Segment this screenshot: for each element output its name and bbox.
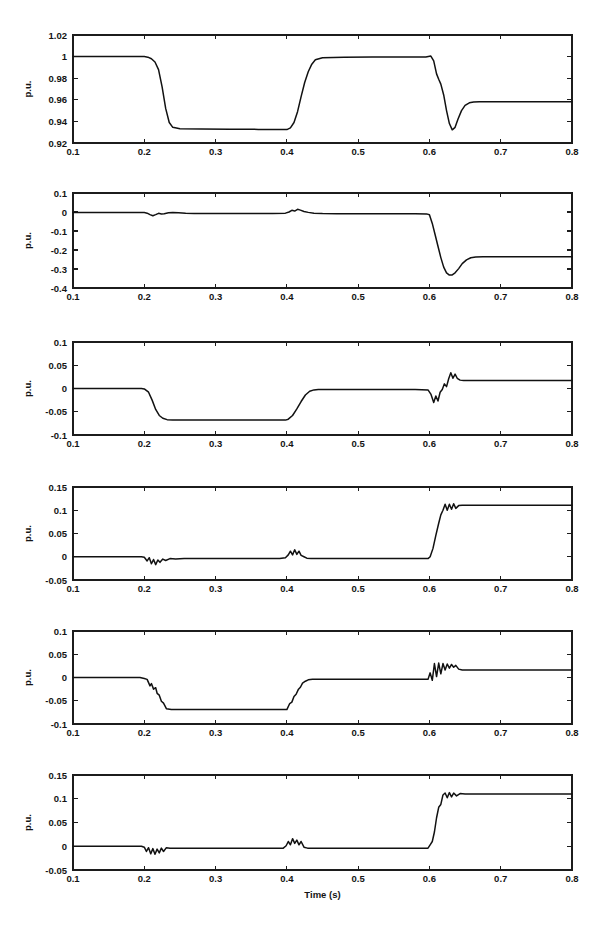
- x-tick-label: 0.6: [423, 438, 436, 449]
- y-tick-label: 0.1: [54, 626, 68, 637]
- y-tick-label: 0.1: [54, 505, 68, 516]
- axes-frame: [73, 487, 572, 580]
- x-tick-label: 0.5: [352, 583, 366, 594]
- y-tick-label: 0.1: [54, 188, 68, 199]
- y-axis-title: p.u.: [22, 232, 33, 249]
- y-tick-label: 1.02: [49, 30, 68, 41]
- y-tick-label: 0: [62, 672, 67, 683]
- y-tick-label: -0.2: [51, 245, 67, 256]
- x-tick-label: 0.1: [66, 873, 80, 884]
- data-trace-reactive-power: [73, 209, 572, 275]
- data-trace-signal-3: [73, 373, 572, 420]
- x-tick-label: 0.3: [209, 873, 222, 884]
- x-tick-label: 0.3: [209, 438, 222, 449]
- y-tick-label: -0.3: [51, 264, 67, 275]
- axes-frame: [73, 631, 572, 724]
- x-tick-label: 0.2: [138, 873, 151, 884]
- plot-area-3: 0.10.20.30.40.50.60.70.8-0.1-0.0500.050.…: [0, 327, 607, 465]
- x-tick-label: 0.2: [138, 146, 151, 157]
- x-tick-label: 0.7: [494, 146, 507, 157]
- y-tick-label: 0.1: [54, 793, 68, 804]
- x-tick-label: 0.8: [565, 727, 578, 738]
- plot-area-2: 0.10.20.30.40.50.60.70.8-0.4-0.3-0.2-0.1…: [0, 178, 607, 320]
- x-tick-label: 0.2: [138, 583, 151, 594]
- multi-panel-figure: 0.10.20.30.40.50.60.70.80.920.940.960.98…: [0, 0, 607, 948]
- plot-area-1: 0.10.20.30.40.50.60.70.80.920.940.960.98…: [0, 20, 607, 168]
- chart-panel-2: 0.10.20.30.40.50.60.70.8-0.4-0.3-0.2-0.1…: [0, 178, 607, 320]
- data-trace-voltage: [73, 56, 572, 130]
- plot-area-6: 0.10.20.30.40.50.60.70.8-0.0500.050.10.1…: [0, 760, 607, 912]
- y-tick-label: 0: [62, 841, 67, 852]
- y-tick-label: -0.05: [45, 865, 67, 876]
- x-tick-label: 0.8: [565, 873, 578, 884]
- y-axis-title: p.u.: [22, 380, 33, 397]
- y-tick-label: -0.05: [45, 575, 67, 586]
- x-tick-label: 0.5: [352, 291, 366, 302]
- chart-panel-1: 0.10.20.30.40.50.60.70.80.920.940.960.98…: [0, 20, 607, 168]
- x-tick-label: 0.3: [209, 727, 222, 738]
- x-tick-label: 0.2: [138, 291, 151, 302]
- y-tick-label: 0: [62, 551, 67, 562]
- x-tick-label: 0.1: [66, 727, 80, 738]
- x-tick-label: 0.5: [352, 438, 366, 449]
- y-tick-label: 1: [62, 51, 68, 62]
- data-trace-signal-4: [73, 504, 572, 565]
- x-tick-label: 0.4: [280, 727, 294, 738]
- axes-frame: [73, 193, 572, 288]
- y-tick-label: 0.05: [49, 649, 68, 660]
- x-tick-label: 0.7: [494, 873, 507, 884]
- y-tick-label: -0.4: [51, 283, 68, 294]
- y-tick-label: 0.94: [49, 116, 68, 127]
- x-tick-label: 0.8: [565, 146, 578, 157]
- x-tick-label: 0.4: [280, 291, 294, 302]
- x-tick-label: 0.4: [280, 146, 294, 157]
- y-tick-label: -0.05: [45, 406, 67, 417]
- x-tick-label: 0.3: [209, 291, 222, 302]
- x-tick-label: 0.8: [565, 291, 578, 302]
- x-tick-label: 0.4: [280, 873, 294, 884]
- y-axis-title: p.u.: [22, 81, 33, 98]
- y-tick-label: -0.1: [51, 719, 68, 730]
- x-tick-label: 0.1: [66, 583, 80, 594]
- chart-panel-5: 0.10.20.30.40.50.60.70.8-0.1-0.0500.050.…: [0, 616, 607, 754]
- x-tick-label: 0.4: [280, 438, 294, 449]
- y-tick-label: 0.15: [49, 770, 68, 781]
- y-tick-label: -0.1: [51, 226, 68, 237]
- plot-area-4: 0.10.20.30.40.50.60.70.8-0.0500.050.10.1…: [0, 472, 607, 610]
- x-tick-label: 0.6: [423, 291, 436, 302]
- axes-frame: [73, 35, 572, 143]
- chart-panel-3: 0.10.20.30.40.50.60.70.8-0.1-0.0500.050.…: [0, 327, 607, 465]
- x-tick-label: 0.2: [138, 438, 151, 449]
- x-tick-label: 0.4: [280, 583, 294, 594]
- axes-frame: [73, 775, 572, 870]
- chart-panel-6: 0.10.20.30.40.50.60.70.8-0.0500.050.10.1…: [0, 760, 607, 912]
- x-tick-label: 0.7: [494, 583, 507, 594]
- x-tick-label: 0.7: [494, 291, 507, 302]
- y-tick-label: -0.05: [45, 695, 67, 706]
- y-tick-label: 0: [62, 383, 67, 394]
- y-tick-label: 0.92: [49, 138, 68, 149]
- y-tick-label: 0.98: [49, 73, 68, 84]
- x-tick-label: 0.3: [209, 583, 222, 594]
- y-tick-label: 0.05: [49, 360, 68, 371]
- x-tick-label: 0.8: [565, 438, 578, 449]
- y-tick-label: 0.1: [54, 337, 68, 348]
- x-tick-label: 0.5: [352, 727, 366, 738]
- x-tick-label: 0.2: [138, 727, 151, 738]
- y-axis-title: p.u.: [22, 814, 33, 831]
- x-axis-title: Time (s): [304, 889, 340, 900]
- chart-panel-4: 0.10.20.30.40.50.60.70.8-0.0500.050.10.1…: [0, 472, 607, 610]
- data-trace-signal-6: [73, 793, 572, 855]
- x-tick-label: 0.5: [352, 146, 366, 157]
- y-tick-label: 0.15: [49, 482, 68, 493]
- data-trace-signal-5: [73, 663, 572, 709]
- x-tick-label: 0.7: [494, 438, 507, 449]
- y-axis-title: p.u.: [22, 669, 33, 686]
- axes-frame: [73, 342, 572, 435]
- x-tick-label: 0.1: [66, 438, 80, 449]
- y-tick-label: 0.96: [49, 94, 68, 105]
- x-tick-label: 0.6: [423, 873, 436, 884]
- x-tick-label: 0.5: [352, 873, 366, 884]
- x-tick-label: 0.7: [494, 727, 507, 738]
- y-tick-label: 0.05: [49, 817, 68, 828]
